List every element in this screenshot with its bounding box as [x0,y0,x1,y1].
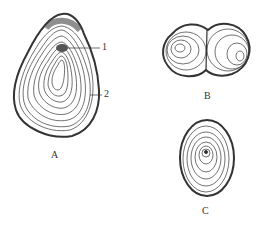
panel-label-a: A [51,150,58,160]
callout-2-growth-rings: 2 [104,89,109,99]
grain-a [14,14,102,137]
panel-label-b: B [204,91,211,101]
grain-b [163,24,249,77]
starch-grain-illustration [0,0,261,225]
panel-label-c: C [202,206,209,216]
grain-c [180,120,234,196]
callout-1-hilum: 1 [102,42,107,52]
